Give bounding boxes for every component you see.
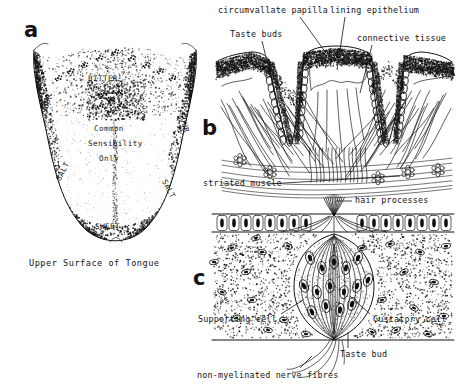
figure-taste-anatomy: a bbox=[0, 0, 459, 389]
panel-c-drawing bbox=[0, 0, 459, 389]
